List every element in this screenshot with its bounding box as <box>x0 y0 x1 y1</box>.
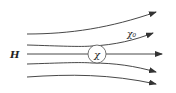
field-line-5 <box>27 75 156 84</box>
sphere-label: χ <box>93 49 101 60</box>
field-line-4 <box>27 63 156 72</box>
medium-label: χ₀ <box>126 29 136 39</box>
field-label: H <box>9 49 20 60</box>
field-line-diagram: χ χ₀ H <box>0 0 176 93</box>
field-line-1 <box>27 12 156 34</box>
